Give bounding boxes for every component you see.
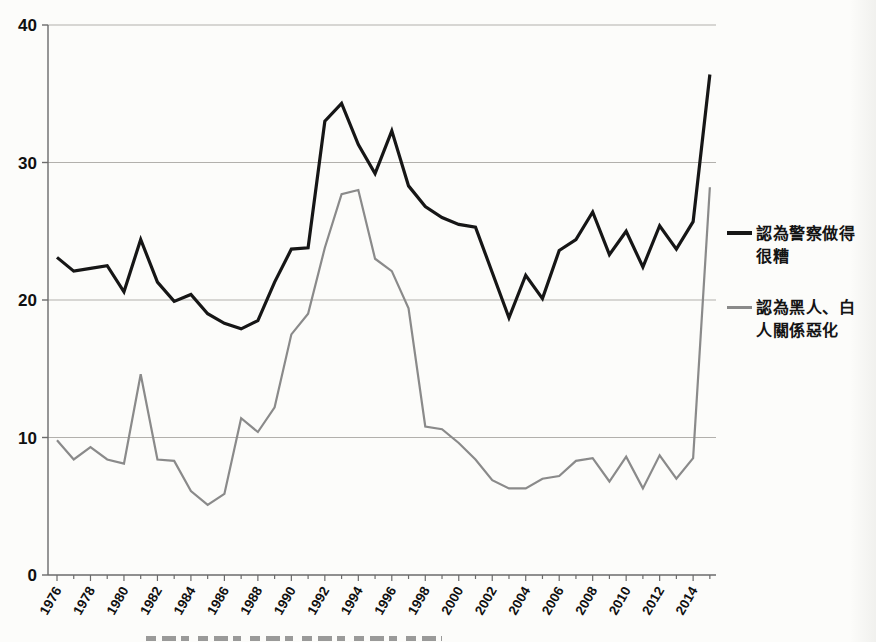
x-tick-label: 1978 — [70, 584, 98, 618]
x-tick-label: 1982 — [137, 584, 165, 618]
x-tick-label: 1992 — [304, 584, 332, 618]
y-tick-label: 30 — [18, 154, 37, 173]
x-tick-label: 1994 — [338, 584, 366, 618]
x-tick-label: 1996 — [371, 584, 399, 618]
x-tick-label: 2000 — [438, 584, 466, 618]
legend-label-police: 認為警察做得很糟 — [756, 222, 858, 268]
legend: 認為警察做得很糟 認為黑人、白人關係惡化 — [727, 222, 873, 370]
race-relations-worse-line — [57, 187, 710, 505]
y-tick-label: 10 — [18, 429, 37, 448]
x-tick-label: 2008 — [572, 584, 600, 618]
x-tick-label: 1984 — [171, 584, 199, 618]
x-tick-label: 2002 — [472, 584, 500, 618]
scanned-chart-page: 0102030401976197819801982198419861988199… — [0, 0, 876, 642]
race-relations-line-swatch-icon — [727, 306, 752, 309]
x-tick-label: 2006 — [539, 584, 567, 618]
x-tick-label: 1980 — [104, 584, 132, 618]
y-tick-label: 40 — [18, 16, 37, 35]
legend-item-police: 認為警察做得很糟 — [727, 222, 873, 268]
police-line-swatch-icon — [727, 231, 752, 235]
legend-label-race-relations: 認為黑人、白人關係惡化 — [756, 296, 858, 342]
x-tick-label: 2010 — [606, 584, 634, 618]
police-bad-job-line — [57, 75, 710, 329]
x-tick-label: 1976 — [37, 584, 65, 618]
x-tick-label: 2004 — [505, 584, 533, 618]
cropped-caption-remnant — [146, 636, 442, 641]
x-tick-label: 1988 — [237, 584, 265, 618]
y-tick-label: 20 — [18, 291, 37, 310]
x-tick-label: 1990 — [271, 584, 299, 618]
x-tick-label: 1986 — [204, 584, 232, 618]
y-tick-label: 0 — [28, 566, 37, 585]
x-tick-label: 2014 — [673, 584, 701, 618]
x-tick-label: 2012 — [639, 584, 667, 618]
x-tick-label: 1998 — [405, 584, 433, 618]
legend-item-race-relations: 認為黑人、白人關係惡化 — [727, 296, 873, 342]
